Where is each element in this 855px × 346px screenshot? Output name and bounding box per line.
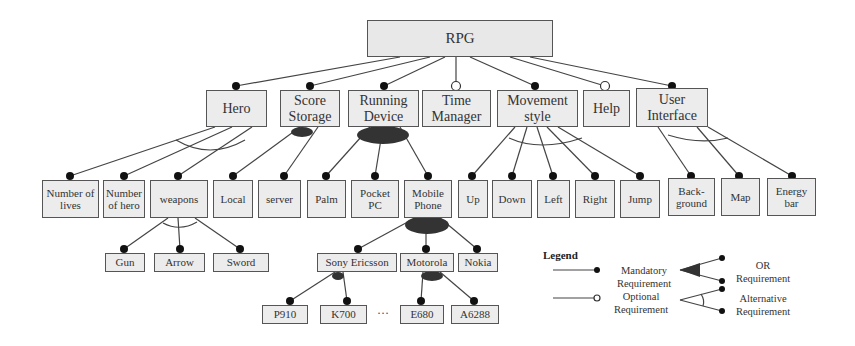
feature-local: Local <box>213 180 253 218</box>
feature-k700: K700 <box>320 305 367 324</box>
feature-sony-ericsson: Sony Ericsson <box>317 253 397 272</box>
feature-user-interface: User Interface <box>636 88 708 127</box>
feature-a6288: A6288 <box>451 305 499 324</box>
feature-energy-bar: Energy bar <box>767 178 816 216</box>
feature-server: server <box>258 180 301 218</box>
feature-help: Help <box>583 90 630 127</box>
feature-jump: Jump <box>620 180 660 218</box>
legend-or: OR Requirement <box>728 259 798 285</box>
feature-hero: Hero <box>206 90 267 127</box>
feature-rpg: RPG <box>367 20 553 57</box>
feature-p910: P910 <box>262 305 308 324</box>
feature-palm: Palm <box>307 180 346 218</box>
feature-up: Up <box>458 180 488 218</box>
feature-score-storage: Score Storage <box>280 90 340 127</box>
feature-motorola: Motorola <box>400 253 454 272</box>
feature-background: Back-ground <box>668 178 715 216</box>
feature-nokia: Nokia <box>458 253 498 272</box>
feature-down: Down <box>492 180 532 218</box>
feature-e680: E680 <box>400 305 444 324</box>
feature-number-of-lives: Number of lives <box>42 180 99 218</box>
feature-mobile-phone: Mobile Phone <box>404 180 452 218</box>
legend-optional: Optional Requirement <box>605 290 677 316</box>
feature-gun: Gun <box>105 253 145 272</box>
feature-map: Map <box>721 178 760 216</box>
feature-time-manager: Time Manager <box>422 90 491 127</box>
legend-mandatory: Mandatory Requirement <box>610 264 678 290</box>
feature-pocket-pc: Pocket PC <box>351 180 399 218</box>
legend-title: Legend <box>543 249 578 261</box>
feature-weapons: weapons <box>150 180 208 218</box>
feature-sword: Sword <box>213 253 269 272</box>
legend-alternative: Alternative Requirement <box>728 292 798 318</box>
feature-diagram: RPG Hero Score Storage Running Device Ti… <box>0 0 855 346</box>
feature-running-device: Running Device <box>348 90 419 127</box>
feature-arrow: Arrow <box>154 253 205 272</box>
feature-movement-style: Movement style <box>497 90 578 127</box>
feature-left: Left <box>537 180 570 218</box>
feature-number-of-hero: Number of hero <box>103 180 145 218</box>
ellipsis: ··· <box>377 306 389 321</box>
feature-right: Right <box>575 180 615 218</box>
